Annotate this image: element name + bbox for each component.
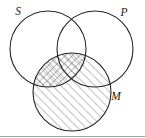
venn-diagram-figure: S P M xyxy=(0,0,145,138)
venn-diagram-canvas: S P M xyxy=(0,0,145,138)
label-p: P xyxy=(119,6,127,18)
label-m: M xyxy=(110,90,122,102)
label-s: S xyxy=(15,5,21,17)
